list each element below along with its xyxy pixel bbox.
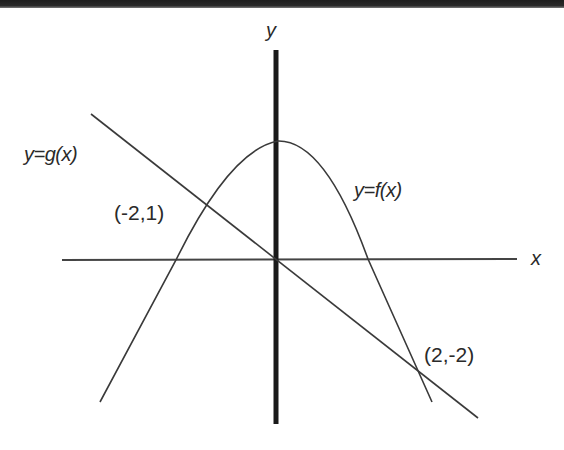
- y-axis-label: y: [266, 20, 276, 40]
- line-g-label: y=g(x): [24, 144, 77, 164]
- function-graph: [0, 0, 564, 450]
- x-axis: [62, 259, 517, 260]
- intersection-point-left-label: (-2,1): [114, 202, 164, 223]
- intersection-point-right-label: (2,-2): [424, 344, 474, 365]
- x-axis-label: x: [531, 248, 541, 268]
- parabola-f-label: y=f(x): [354, 180, 402, 200]
- line-g: [91, 114, 478, 418]
